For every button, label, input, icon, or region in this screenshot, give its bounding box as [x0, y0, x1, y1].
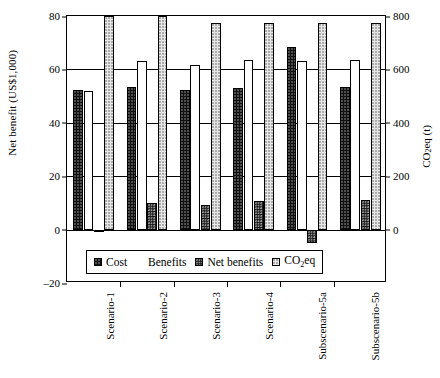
- bar-co2eq-6: [371, 23, 381, 230]
- legend-label-co2eq-main: CO: [284, 254, 300, 266]
- legend-item-benefits: Benefits: [136, 256, 186, 268]
- bar-cost-2: [127, 87, 137, 229]
- gridline: [67, 123, 385, 124]
- y-axis-right-tick: 200: [385, 171, 410, 182]
- chart-legend: Cost Benefits Net benefits CO2eq: [86, 250, 323, 274]
- bar-benefits-3: [190, 65, 200, 230]
- y-axis-right-tick: 0: [385, 224, 399, 235]
- x-axis-label-0: Scenario-1: [104, 292, 116, 340]
- legend-item-cost: Cost: [94, 256, 127, 268]
- bar-benefits-2: [137, 61, 147, 230]
- bar-cost-4: [233, 88, 243, 230]
- gridline: [67, 69, 385, 70]
- bar-net-benefits-3: [201, 205, 211, 230]
- bar-cost-1: [73, 90, 83, 229]
- legend-label-net-benefits: Net benefits: [207, 256, 263, 268]
- x-axis-label-2: Scenario-3: [210, 292, 222, 340]
- y-axis-left-title: Net benefit (US$1,000): [6, 50, 22, 156]
- y-axis-left-tick: 40: [49, 117, 67, 128]
- benefits-swatch: [136, 258, 144, 266]
- legend-label-co2eq-tail: eq: [304, 254, 315, 266]
- y-axis-right-tick: 600: [385, 64, 410, 75]
- x-axis-tick: [334, 281, 335, 287]
- bar-co2eq-3: [211, 23, 221, 230]
- cost-swatch: [94, 258, 102, 266]
- y-axis-left-tick: 0: [55, 224, 68, 235]
- y-axis-left-tick: 60: [49, 64, 67, 75]
- bar-cost-6: [340, 87, 350, 229]
- legend-item-net-benefits: Net benefits: [195, 256, 263, 268]
- x-axis-label-1: Scenario-2: [157, 292, 169, 340]
- legend-label-co2eq: CO2eq: [284, 254, 315, 269]
- bar-co2eq-5: [318, 23, 328, 230]
- zero-baseline: [67, 230, 385, 231]
- x-axis-tick: [174, 281, 175, 287]
- y-axis-left-tick: 20: [49, 171, 67, 182]
- x-axis-tick: [280, 281, 281, 287]
- bar-net-benefits-4: [254, 201, 264, 229]
- bar-co2eq-4: [264, 23, 274, 230]
- plot-area: 806040200–208006004002000: [66, 15, 386, 282]
- y-axis-left-tick: –20: [44, 278, 68, 289]
- x-axis-tick: [120, 281, 121, 287]
- y-axis-right-tick: 400: [385, 117, 410, 128]
- bar-benefits-1: [84, 91, 94, 230]
- bar-benefits-5: [297, 61, 307, 230]
- y-axis-left-tick: 80: [49, 11, 67, 22]
- gridline: [67, 176, 385, 177]
- bar-net-benefits-5: [307, 230, 317, 243]
- bar-co2eq-2: [158, 16, 168, 230]
- x-axis-tick: [227, 281, 228, 287]
- co2eq-swatch: [272, 258, 280, 266]
- y-axis-right-title-sub: 2: [424, 149, 433, 153]
- y-axis-right-tick: 800: [385, 11, 410, 22]
- legend-item-co2eq: CO2eq: [272, 254, 315, 269]
- legend-label-cost: Cost: [106, 256, 127, 268]
- legend-label-benefits: Benefits: [148, 256, 186, 268]
- y-axis-right-title: CO2eq (t): [420, 125, 433, 168]
- bar-net-benefits-6: [361, 200, 371, 230]
- bar-benefits-4: [244, 60, 254, 230]
- y-axis-right-title-main: CO: [420, 153, 432, 168]
- bar-benefits-6: [350, 60, 360, 230]
- x-axis-label-3: Scenario-4: [263, 292, 275, 340]
- chart-figure: Net benefit (US$1,000) CO2eq (t) 8060402…: [0, 0, 440, 378]
- y-axis-right-title-tail: eq (t): [420, 125, 432, 149]
- bar-net-benefits-2: [147, 203, 157, 230]
- bar-cost-3: [180, 90, 190, 230]
- net-benefits-swatch: [195, 258, 203, 266]
- x-axis-label-4: Subscenario-5a: [316, 292, 328, 360]
- bar-co2eq-1: [104, 16, 114, 230]
- bar-cost-5: [287, 47, 297, 229]
- x-axis-label-5: Subscenario-5b: [369, 292, 381, 360]
